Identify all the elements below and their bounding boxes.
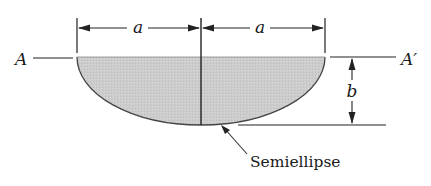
arrow-left-icon — [78, 25, 90, 32]
arrow-down-icon — [349, 112, 356, 124]
arrow-left-icon — [202, 25, 214, 32]
label-a-left: a — [133, 17, 143, 37]
arrow-up-icon — [349, 58, 356, 70]
arrow-right-icon — [188, 25, 200, 32]
label-a-right: a — [255, 17, 265, 37]
label-axis-right: A′ — [399, 49, 417, 69]
label-b: b — [347, 81, 358, 101]
arrow-right-icon — [312, 25, 324, 32]
label-callout: Semiellipse — [250, 153, 341, 171]
label-axis-left: A — [13, 49, 27, 69]
semiellipse-diagram: a a b A A′ Semiellipse — [0, 0, 431, 186]
